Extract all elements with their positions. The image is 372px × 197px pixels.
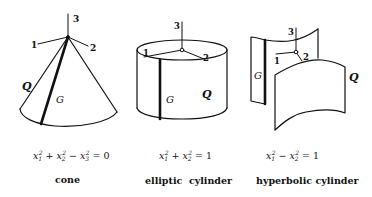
axis-2 <box>182 50 204 59</box>
hyperbolic-cylinder-panel: 3 1 2 G Q x12−x22= 1 hyperbolic cylinder <box>251 27 360 186</box>
axis-1 <box>144 50 182 57</box>
elliptic-cylinder-equation: x12+x22= 1 <box>159 149 212 162</box>
cylinder-axis-1-label: 1 <box>143 48 149 58</box>
axis-1 <box>276 52 296 54</box>
hyperbolic-axis-1-label: 1 <box>274 56 280 66</box>
hyperbolic-surface-label: Q <box>349 71 359 84</box>
cone-drawing <box>20 14 117 126</box>
hyperbolic-cylinder-equation: x12−x22= 1 <box>266 149 319 162</box>
hyperbolic-cylinder-caption: hyperbolic cylinder <box>256 175 360 186</box>
cone-axis-1-label: 1 <box>31 40 37 50</box>
elliptic-cylinder-caption: elliptic cylinder <box>145 175 233 186</box>
cone-generator-label: G <box>56 94 64 105</box>
cone-panel: 3 1 2 Q G x12+x22−x32= 0 cone <box>20 14 117 185</box>
cylinder-origin <box>180 48 184 52</box>
cylinder-axis-3-label: 3 <box>174 21 180 31</box>
cone-surface-label: Q <box>22 80 32 93</box>
cylinder-generator-label: G <box>166 94 174 105</box>
elliptic-cylinder-drawing <box>137 22 227 119</box>
cylinder-surface-label: Q <box>202 88 212 101</box>
cone-generator-line <box>41 37 68 124</box>
hyperbolic-cylinder-drawing <box>251 28 345 130</box>
elliptic-cylinder-panel: 3 1 2 G Q x12+x22= 1 elliptic cylinder <box>137 21 233 186</box>
quadric-surfaces-figure: 3 1 2 Q G x12+x22−x32= 0 cone 3 1 2 G Q … <box>0 0 372 197</box>
cone-axis-2-label: 2 <box>90 43 96 53</box>
front-sheet-outline <box>275 60 345 130</box>
cone-apex <box>67 36 70 39</box>
cone-equation: x12+x22−x32= 0 <box>33 149 110 162</box>
hyperbolic-axis-2-label: 2 <box>303 52 309 62</box>
cylinder-bottom-curve <box>137 108 227 119</box>
hyperbolic-origin <box>294 50 298 54</box>
hyperbolic-axis-3-label: 3 <box>288 27 294 37</box>
cone-base-curve <box>20 109 117 126</box>
cone-axis-3-label: 3 <box>73 14 79 24</box>
cone-caption: cone <box>55 174 80 185</box>
hyperbolic-generator-label: G <box>254 70 262 81</box>
cylinder-axis-2-label: 2 <box>203 53 209 63</box>
